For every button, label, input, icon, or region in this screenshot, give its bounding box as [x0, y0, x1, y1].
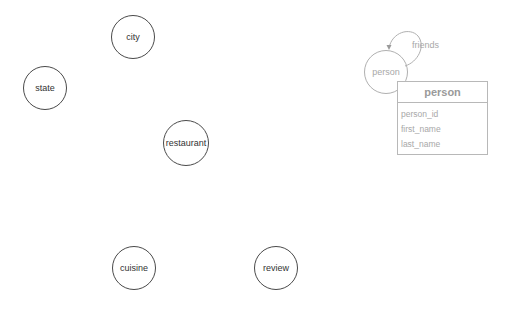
table-field-first-name: first_name	[398, 121, 487, 136]
table-field-person-id: person_id	[398, 106, 487, 121]
table-title: person	[398, 82, 487, 103]
diagram-canvas[interactable]: city state restaurant cuisine review fri…	[0, 0, 512, 309]
entity-table-person[interactable]: person person_id first_name last_name	[397, 81, 488, 155]
edge-label-friends: friends	[412, 40, 439, 50]
node-label: person	[372, 67, 400, 77]
table-field-last-name: last_name	[398, 136, 487, 151]
table-fields: person_id first_name last_name	[398, 103, 487, 154]
